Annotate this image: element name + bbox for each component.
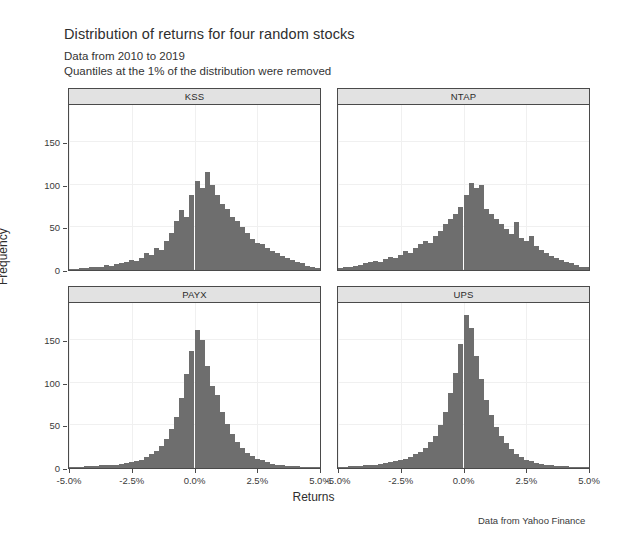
x-tick-mark [526, 469, 527, 473]
facet-plotbox [68, 303, 321, 469]
chart-subtitle-line1: Data from 2010 to 2019 [64, 50, 185, 62]
y-tick-mark [63, 143, 67, 144]
x-tick-label: -2.5% [112, 475, 152, 486]
facet-strip-payx: PAYX [68, 286, 321, 303]
gridline-vertical [320, 303, 321, 468]
histogram-bar [584, 467, 589, 468]
chart-title: Distribution of returns for four random … [64, 26, 355, 42]
x-tick-mark [132, 469, 133, 473]
y-tick-label: 100 [34, 180, 60, 191]
y-tick-label: 100 [34, 378, 60, 389]
facet-panel-payx: PAYX [68, 286, 321, 469]
facet-panel-ntap: NTAP [337, 88, 590, 271]
x-tick-mark [257, 469, 258, 473]
y-tick-mark [63, 271, 67, 272]
facet-plotbox [337, 303, 590, 469]
x-tick-label: 0.0% [444, 475, 484, 486]
histogram-bars [69, 105, 320, 270]
x-tick-mark [69, 469, 70, 473]
x-axis-title: Returns [0, 490, 627, 504]
y-tick-mark [63, 384, 67, 385]
x-tick-label: 0.0% [175, 475, 215, 486]
y-axis-title: Frequency [0, 228, 10, 285]
y-tick-label: 50 [34, 222, 60, 233]
facet-plotbox [68, 105, 321, 271]
facet-panel-kss: KSS [68, 88, 321, 271]
facet-strip-label: UPS [453, 289, 473, 300]
chart-subtitle-line2: Quantiles at the 1% of the distribution … [64, 65, 331, 77]
y-tick-mark [63, 469, 67, 470]
x-tick-mark [320, 469, 321, 473]
x-tick-mark [338, 469, 339, 473]
y-tick-label: 0 [34, 463, 60, 474]
x-tick-label: 2.5% [506, 475, 546, 486]
histogram-bars [69, 303, 320, 468]
facet-strip-kss: KSS [68, 88, 321, 105]
y-tick-mark [63, 426, 67, 427]
gridline-vertical [320, 105, 321, 270]
x-tick-mark [195, 469, 196, 473]
y-tick-mark [63, 228, 67, 229]
histogram-bar [315, 268, 320, 270]
x-tick-label: -5.0% [49, 475, 89, 486]
y-tick-mark [63, 186, 67, 187]
y-tick-mark [63, 341, 67, 342]
histogram-bar [584, 267, 589, 270]
x-tick-label: 5.0% [569, 475, 609, 486]
x-tick-mark [401, 469, 402, 473]
facet-strip-ups: UPS [337, 286, 590, 303]
x-tick-label: -2.5% [381, 475, 421, 486]
chart-figure: Distribution of returns for four random … [0, 0, 627, 552]
gridline-vertical [589, 105, 590, 270]
facet-strip-label: PAYX [182, 289, 207, 300]
x-tick-mark [589, 469, 590, 473]
y-tick-label: 150 [34, 137, 60, 148]
facet-panel-ups: UPS [337, 286, 590, 469]
facet-plotbox [337, 105, 590, 271]
y-tick-label: 0 [34, 265, 60, 276]
y-tick-label: 50 [34, 420, 60, 431]
chart-caption: Data from Yahoo Finance [478, 515, 585, 526]
histogram-bars [338, 303, 589, 468]
x-tick-mark [464, 469, 465, 473]
x-tick-label: -5.0% [318, 475, 358, 486]
histogram-bar [315, 467, 320, 468]
x-tick-label: 2.5% [237, 475, 277, 486]
facet-strip-label: KSS [185, 91, 205, 102]
gridline-vertical [589, 303, 590, 468]
histogram-bars [338, 105, 589, 270]
y-tick-label: 150 [34, 335, 60, 346]
facet-strip-ntap: NTAP [337, 88, 590, 105]
facet-strip-label: NTAP [451, 91, 476, 102]
